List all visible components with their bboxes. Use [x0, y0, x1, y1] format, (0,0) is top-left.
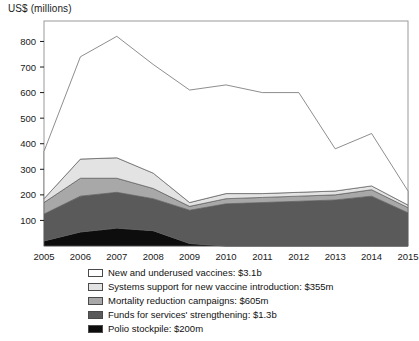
x-tick-label: 2011 — [252, 251, 272, 262]
legend-swatch-polio-stockpile — [88, 325, 103, 333]
x-tick-label: 2007 — [106, 251, 127, 262]
legend-item[interactable]: Systems support for new vaccine introduc… — [88, 280, 333, 293]
x-tick-label: 2012 — [288, 251, 309, 262]
x-tick-label: 2010 — [215, 251, 236, 262]
legend-label-funds-for-services-strengthening: Funds for services' strengthening: $1.3b — [108, 309, 277, 320]
y-tick-label: 100 — [20, 215, 36, 226]
y-tick-label: 800 — [20, 36, 36, 47]
x-tick-label: 2013 — [325, 251, 346, 262]
x-tick-label: 2009 — [179, 251, 200, 262]
legend-label-polio-stockpile: Polio stockpile: $200m — [108, 323, 203, 334]
legend-swatch-mortality-reduction-campaigns — [88, 297, 103, 305]
x-tick-label: 2006 — [70, 251, 91, 262]
legend-swatch-systems-support — [88, 283, 103, 291]
legend-label-new-and-underused-vaccines: New and underused vaccines: $3.1b — [108, 267, 262, 278]
y-tick-label: 400 — [20, 138, 36, 149]
legend-swatch-new-and-underused-vaccines — [88, 269, 103, 277]
y-tick-label: 500 — [20, 113, 36, 124]
chart-legend: New and underused vaccines: $3.1b System… — [88, 266, 333, 335]
legend-label-mortality-reduction-campaigns: Mortality reduction campaigns: $605m — [108, 295, 269, 306]
legend-label-systems-support: Systems support for new vaccine introduc… — [108, 281, 333, 292]
legend-swatch-funds-for-services-strengthening — [88, 311, 103, 319]
y-tick-label: 300 — [20, 164, 36, 175]
legend-item[interactable]: Mortality reduction campaigns: $605m — [88, 294, 333, 307]
y-tick-label: 600 — [20, 87, 36, 98]
legend-item[interactable]: Polio stockpile: $200m — [88, 322, 333, 335]
x-tick-label: 2015 — [397, 251, 418, 262]
y-tick-label: 700 — [20, 62, 36, 73]
legend-item[interactable]: Funds for services' strengthening: $1.3b — [88, 308, 333, 321]
x-tick-label: 2014 — [361, 251, 382, 262]
legend-item[interactable]: New and underused vaccines: $3.1b — [88, 266, 333, 279]
y-tick-label: 200 — [20, 189, 36, 200]
x-tick-label: 2008 — [143, 251, 164, 262]
x-tick-label: 2005 — [33, 251, 54, 262]
chart-container: US$ (millions) 1002003004005006007008002… — [0, 0, 419, 341]
